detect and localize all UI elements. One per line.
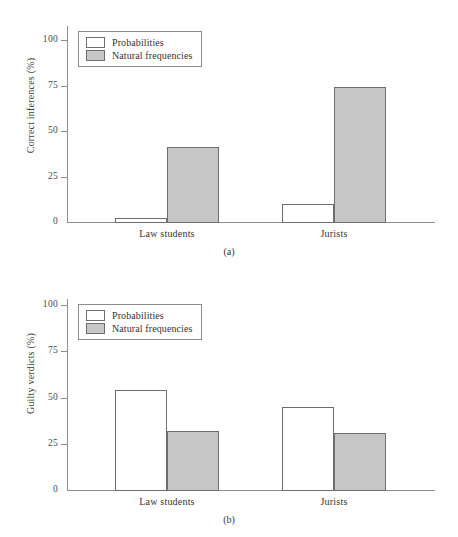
y-tick-100-a: 100 — [0, 40, 58, 41]
y-tick-25-a: 25 — [0, 177, 58, 178]
legend-label-probabilities-a: Probabilities — [112, 37, 164, 48]
legend-item-natural-frequencies-b: Natural frequencies — [86, 322, 192, 335]
chart-panel-a: Correct inferences (%) 100 75 50 25 0 Pr — [0, 0, 458, 268]
legend-swatch-probabilities-icon-b — [86, 310, 105, 321]
panel-caption-a: (a) — [0, 246, 458, 257]
chart-panel-b: Guilty verdicts (%) 100 75 50 25 0 Proba… — [0, 268, 458, 537]
x-axis-label-jurists-a: Jurists — [284, 228, 384, 239]
y-axis-title-b: Guilty verdicts (%) — [25, 289, 36, 459]
y-tick-label-100-a: 100 — [32, 34, 58, 44]
legend-item-probabilities-b: Probabilities — [86, 309, 192, 322]
y-tick-label-0-b: 0 — [32, 484, 58, 494]
legend-a: Probabilities Natural frequencies — [78, 31, 202, 67]
bar-a-jurists-natural-frequencies — [334, 87, 386, 223]
bar-a-law-students-natural-frequencies — [167, 147, 219, 223]
legend-swatch-natural-frequencies-icon-b — [86, 323, 105, 334]
y-tick-label-50-a: 50 — [32, 125, 58, 135]
bar-b-law-students-natural-frequencies — [167, 431, 219, 491]
y-tick-0-b: 0 — [0, 490, 58, 491]
bar-a-law-students-probabilities — [115, 218, 167, 223]
y-tick-50-b: 50 — [0, 398, 58, 399]
legend-item-probabilities-a: Probabilities — [86, 36, 192, 49]
legend-label-natural-frequencies-a: Natural frequencies — [112, 50, 192, 61]
x-axis-label-law-students-a: Law students — [117, 228, 217, 239]
y-tick-label-100-b: 100 — [32, 299, 58, 309]
y-tick-75-a: 75 — [0, 86, 58, 87]
x-axis-label-jurists-b: Jurists — [284, 496, 384, 507]
legend-item-natural-frequencies-a: Natural frequencies — [86, 49, 192, 62]
y-axis-line-b — [67, 299, 68, 490]
legend-b: Probabilities Natural frequencies — [78, 304, 202, 340]
y-tick-label-75-a: 75 — [32, 80, 58, 90]
y-tick-50-a: 50 — [0, 131, 58, 132]
y-tick-100-b: 100 — [0, 305, 58, 306]
x-axis-label-law-students-b: Law students — [117, 496, 217, 507]
bar-b-jurists-natural-frequencies — [334, 433, 386, 491]
y-tick-label-25-a: 25 — [32, 171, 58, 181]
bar-b-jurists-probabilities — [282, 407, 334, 491]
legend-swatch-probabilities-icon-a — [86, 37, 105, 48]
y-axis-title-a: Correct inferences (%) — [25, 21, 36, 191]
plot-area-b: Guilty verdicts (%) 100 75 50 25 0 Proba… — [0, 268, 458, 508]
y-tick-label-25-b: 25 — [32, 438, 58, 448]
y-axis-line-a — [67, 26, 68, 222]
panel-caption-b: (b) — [0, 514, 458, 525]
bar-a-jurists-probabilities — [282, 204, 334, 223]
y-tick-0-a: 0 — [0, 222, 58, 223]
legend-swatch-natural-frequencies-icon-a — [86, 50, 105, 61]
legend-label-probabilities-b: Probabilities — [112, 310, 164, 321]
y-tick-75-b: 75 — [0, 351, 58, 352]
y-tick-label-0-a: 0 — [32, 216, 58, 226]
y-tick-label-75-b: 75 — [32, 345, 58, 355]
legend-label-natural-frequencies-b: Natural frequencies — [112, 323, 192, 334]
y-tick-25-b: 25 — [0, 444, 58, 445]
bar-b-law-students-probabilities — [115, 390, 167, 491]
y-tick-label-50-b: 50 — [32, 392, 58, 402]
plot-area-a: Correct inferences (%) 100 75 50 25 0 Pr — [0, 0, 458, 240]
